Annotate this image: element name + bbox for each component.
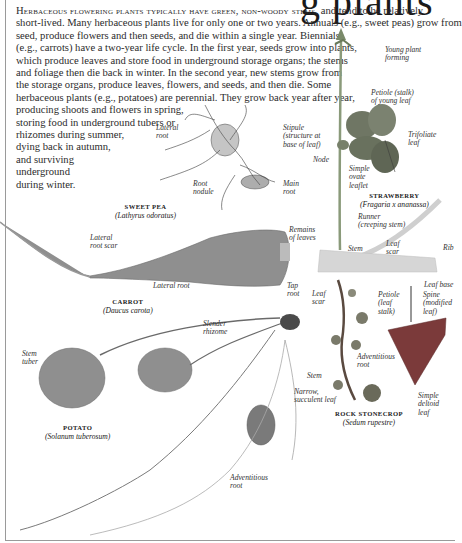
label-root-nodule: Root nodule <box>193 180 214 197</box>
carrot-illustration <box>0 222 290 286</box>
caption-potato: POTATO (Solanum tuberosum) <box>45 424 110 441</box>
label-simple-ovate-leaflet: Simple ovate leaflet <box>349 165 370 190</box>
rock-stonecrop-illustration <box>331 280 381 402</box>
label-rhubarb-stem: Stem <box>348 245 363 253</box>
label-petiole-leaf-stalk: Petiole (leaf stalk) <box>378 291 400 316</box>
label-slender-rhizome: Slender rhizome <box>203 320 227 337</box>
label-remains-of-leaves: Remains of leaves <box>289 226 316 243</box>
label-leaf-base: Leaf base <box>424 281 453 289</box>
label-stonecrop-stem: Stem <box>307 372 322 380</box>
label-spine: Spine (modified leaf) <box>423 291 452 316</box>
label-node: Node <box>313 156 329 164</box>
label-runner: Runner (creeping stem) <box>358 213 405 230</box>
label-young-plant: Young plant forming <box>385 46 421 63</box>
label-stonecrop-leaf-scar: Leaf scar <box>312 290 326 307</box>
label-rhubarb-leaf-scar: Leaf scar <box>386 240 400 257</box>
label-stonecrop-adventitious-root: Adventitious root <box>357 353 395 370</box>
label-simple-deltoid-leaf: Simple deltoid leaf <box>418 392 439 417</box>
rhubarb-stalk-illustration <box>318 250 437 272</box>
caption-strawberry: STRAWBERRY (Fragaria x ananassa) <box>360 192 429 209</box>
label-trifoliate-leaf: Trifoliate leaf <box>408 131 436 148</box>
label-carrot-lateral-root: Lateral root <box>153 282 190 290</box>
caption-rock-stonecrop: ROCK STONECROP (Sedum rupestre) <box>335 410 403 427</box>
label-stipule: Stipule (structure at base of leaf) <box>283 124 321 149</box>
label-petiole-young-leaf: Petiole (stalk) of young leaf <box>371 89 414 106</box>
label-tap-root: Tap root <box>287 282 299 299</box>
label-potato-adventitious-root: Adventitious root <box>230 474 268 491</box>
label-main-root: Main root <box>283 180 299 197</box>
label-lateral-root-scar: Lateral root scar <box>90 234 117 251</box>
label-narrow-succulent-leaf: Narrow, succulent leaf <box>294 388 336 405</box>
label-sweet-pea-lateral-root: Lateral root <box>156 124 178 141</box>
label-rib: Rib <box>443 244 454 252</box>
caption-carrot: CARROT (Daucus carota) <box>103 298 153 315</box>
label-stem-tuber: Stem tuber <box>22 350 38 367</box>
sweet-pea-illustration <box>160 105 275 210</box>
caption-sweet-pea: SWEET PEA (Lathyrus odoratus) <box>115 203 176 220</box>
